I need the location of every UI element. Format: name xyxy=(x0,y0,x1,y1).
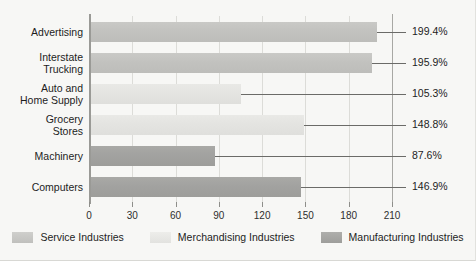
x-tick-label-180: 180 xyxy=(340,210,357,221)
tick-mark-90 xyxy=(219,202,220,207)
category-label-line: Computers xyxy=(0,181,83,193)
legend-label: Manufacturing Industries xyxy=(349,231,464,243)
x-tick-label-0: 0 xyxy=(86,210,92,221)
tick-mark-150 xyxy=(305,202,306,207)
category-label-line: Advertising xyxy=(0,26,83,38)
gridline-90 xyxy=(219,16,220,202)
category-label-line: Grocery xyxy=(0,113,83,125)
y-axis-line xyxy=(89,14,91,204)
leader-line xyxy=(372,63,406,64)
legend-swatch xyxy=(321,232,342,243)
category-label-line: Machinery xyxy=(0,150,83,162)
x-tick-label-90: 90 xyxy=(213,210,224,221)
value-label: 195.9% xyxy=(412,56,448,68)
value-label: 87.6% xyxy=(412,149,442,161)
legend-swatch xyxy=(150,232,171,243)
x-tick-label-30: 30 xyxy=(127,210,138,221)
legend-item: Service Industries xyxy=(12,231,123,243)
category-label-line: Interstate xyxy=(0,51,83,63)
category-label: Advertising xyxy=(0,26,83,38)
bar xyxy=(89,22,377,42)
leader-line xyxy=(301,187,406,188)
plot-area xyxy=(89,16,392,202)
legend-item: Merchandising Industries xyxy=(150,231,295,243)
bar xyxy=(89,84,241,104)
value-label: 105.3% xyxy=(412,87,448,99)
bar-chart-figure: AdvertisingInterstateTruckingAuto andHom… xyxy=(0,0,476,261)
x-tick-label-60: 60 xyxy=(170,210,181,221)
tick-mark-120 xyxy=(262,202,263,207)
category-label-line: Auto and xyxy=(0,82,83,94)
category-label: GroceryStores xyxy=(0,113,83,137)
bar xyxy=(89,177,301,197)
chart-legend: Service IndustriesMerchandising Industri… xyxy=(0,226,476,248)
tick-mark-30 xyxy=(132,202,133,207)
value-label: 199.4% xyxy=(412,25,448,37)
legend-swatch xyxy=(12,232,33,243)
gridline-120 xyxy=(262,16,263,202)
bar xyxy=(89,53,372,73)
leader-line xyxy=(241,94,406,95)
category-label: InterstateTrucking xyxy=(0,51,83,75)
x-tick-label-120: 120 xyxy=(254,210,271,221)
legend-item: Manufacturing Industries xyxy=(321,231,464,243)
gridline-150 xyxy=(305,16,306,202)
category-label: Auto andHome Supply xyxy=(0,82,83,106)
category-label: Computers xyxy=(0,181,83,193)
tick-mark-60 xyxy=(176,202,177,207)
gridline-30 xyxy=(132,16,133,202)
value-label: 146.9% xyxy=(412,180,448,192)
plot-right-border xyxy=(392,14,393,204)
tick-mark-180 xyxy=(349,202,350,207)
legend-label: Merchandising Industries xyxy=(178,231,295,243)
leader-line xyxy=(215,156,406,157)
category-label-line: Trucking xyxy=(0,63,83,75)
legend-label: Service Industries xyxy=(40,231,123,243)
leader-line xyxy=(304,125,406,126)
value-label: 148.8% xyxy=(412,118,448,130)
tick-mark-210 xyxy=(392,202,393,207)
x-tick-label-210: 210 xyxy=(384,210,401,221)
gridline-180 xyxy=(349,16,350,202)
category-label-line: Home Supply xyxy=(0,94,83,106)
category-label: Machinery xyxy=(0,150,83,162)
leader-line xyxy=(377,32,406,33)
gridline-60 xyxy=(176,16,177,202)
category-label-line: Stores xyxy=(0,125,83,137)
x-tick-label-150: 150 xyxy=(297,210,314,221)
tick-mark-0 xyxy=(89,202,90,207)
bar xyxy=(89,146,215,166)
bar xyxy=(89,115,304,135)
